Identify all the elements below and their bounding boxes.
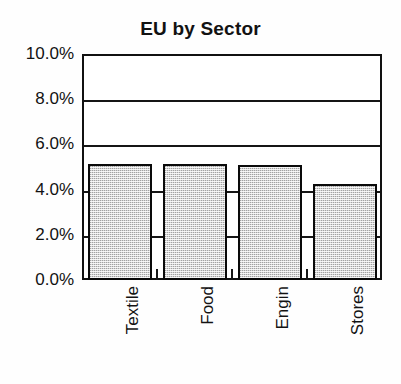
- x-tick-label-textile: Textile: [120, 286, 137, 334]
- y-axis: 10.0% 8.0% 6.0% 4.0% 2.0% 0.0%: [0, 0, 80, 384]
- x-tick-label-food: Food: [195, 286, 212, 325]
- x-axis-tick-1: [156, 269, 158, 280]
- bar-textile[interactable]: [88, 164, 152, 280]
- y-tick-label-6: 6.0%: [35, 135, 74, 152]
- y-tick-label-0: 0.0%: [35, 271, 74, 288]
- y-tick-label-10: 10.0%: [26, 45, 74, 62]
- bar-stores[interactable]: [313, 184, 377, 280]
- x-tick-label-engin: Engin: [270, 286, 287, 329]
- x-tick-label-text: Textile: [124, 286, 141, 334]
- x-axis-tick-2: [231, 269, 233, 280]
- x-axis: TextileFoodEnginStores: [82, 286, 382, 382]
- x-tick-label-text: Stores: [349, 286, 366, 335]
- y-tick-label-2: 2.0%: [35, 226, 74, 243]
- y-tick-label-4: 4.0%: [35, 181, 74, 198]
- x-tick-label-text: Engin: [274, 286, 291, 329]
- x-tick-label-text: Food: [199, 286, 216, 325]
- bar-chart-figure: EU by Sector 10.0% 8.0% 6.0% 4.0% 2.0% 0…: [0, 0, 401, 384]
- y-tick-label-8: 8.0%: [35, 90, 74, 107]
- bar-engin[interactable]: [238, 165, 302, 280]
- bars-layer: [82, 54, 382, 280]
- x-axis-tick-3: [306, 269, 308, 280]
- x-tick-label-stores: Stores: [345, 286, 362, 335]
- bar-food[interactable]: [163, 164, 227, 280]
